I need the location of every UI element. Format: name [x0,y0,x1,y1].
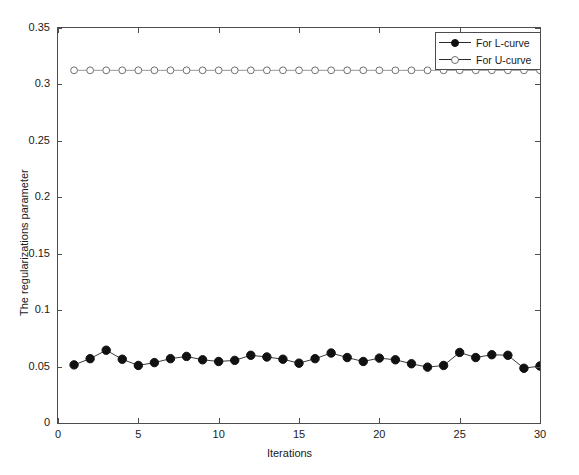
x-tick-mark [138,418,139,423]
data-point [151,67,158,74]
y-tick-mark [57,367,62,368]
data-point [296,67,303,74]
data-point [376,67,383,74]
data-point [520,364,528,372]
data-point [359,357,367,365]
x-tick-label: 5 [118,428,158,440]
y-tick-mark [535,423,540,424]
y-tick-mark [57,141,62,142]
legend-label-l-curve: For L-curve [471,37,530,49]
data-point [279,355,287,363]
data-point [423,363,431,371]
data-point [455,348,463,356]
x-tick-label: 25 [440,428,480,440]
data-point [344,67,351,74]
legend-item-u-curve: For U-curve [436,51,540,68]
data-point [167,67,174,74]
data-point [134,361,142,369]
data-point [312,67,319,74]
y-tick-label: 0.05 [0,360,50,372]
data-point [328,67,335,74]
data-point [375,354,383,362]
data-point [119,67,126,74]
data-point [214,357,222,365]
data-point [424,67,431,74]
x-tick-mark [138,28,139,33]
data-point [360,67,367,74]
y-tick-mark [57,84,62,85]
data-point [198,356,206,364]
x-tick-label: 15 [279,428,319,440]
y-tick-mark [535,310,540,311]
data-point [392,67,399,74]
data-point [215,67,222,74]
x-tick-label: 20 [359,428,399,440]
data-point [183,67,190,74]
x-tick-mark [299,28,300,33]
data-point [439,361,447,369]
data-point [247,351,255,359]
data-point [103,67,110,74]
data-point [231,356,239,364]
x-tick-mark [379,418,380,423]
x-tick-mark [540,418,541,423]
y-tick-label: 0.3 [0,77,50,89]
data-point [504,351,512,359]
x-tick-mark [58,28,59,33]
data-point [311,354,319,362]
data-point [135,67,142,74]
data-point [102,346,110,354]
y-tick-mark [535,141,540,142]
x-tick-mark [299,418,300,423]
data-point [280,67,287,74]
y-tick-mark [535,84,540,85]
data-point [71,67,78,74]
plot-canvas [58,28,540,423]
data-point [118,355,126,363]
x-tick-mark [460,418,461,423]
x-tick-label: 10 [199,428,239,440]
x-axis-title: Iterations [0,447,579,459]
legend-symbol-filled-circle-icon [439,37,471,49]
x-tick-mark [219,28,220,33]
data-point [488,351,496,359]
data-point [182,352,190,360]
y-tick-mark [57,254,62,255]
x-tick-mark [219,418,220,423]
y-tick-label: 0.35 [0,21,50,33]
legend-item-l-curve: For L-curve [436,34,540,51]
data-point [407,360,415,368]
figure: 00.050.10.150.20.250.30.35 051015202530 … [0,0,579,475]
data-point [70,361,78,369]
data-point [408,67,415,74]
y-tick-mark [535,254,540,255]
y-tick-mark [535,367,540,368]
y-tick-label: 0 [0,416,50,428]
data-point [150,358,158,366]
x-tick-label: 30 [520,428,560,440]
data-point [327,349,335,357]
y-tick-mark [535,197,540,198]
series-l-curve [70,346,540,372]
data-point [263,353,271,361]
y-tick-mark [57,310,62,311]
data-point [263,67,270,74]
data-point [231,67,238,74]
y-axis-title: The regularizations parameter [18,169,30,316]
data-point [87,67,94,74]
x-tick-label: 0 [38,428,78,440]
data-point [343,353,351,361]
data-point [199,67,206,74]
data-point [166,354,174,362]
plot-area [57,27,541,424]
x-tick-mark [379,28,380,33]
legend-symbol-open-circle-icon [439,54,471,66]
data-point [472,353,480,361]
legend-label-u-curve: For U-curve [471,54,531,66]
legend: For L-curve For U-curve [435,32,541,70]
y-tick-label: 0.25 [0,134,50,146]
data-point [247,67,254,74]
data-point [295,359,303,367]
x-tick-mark [58,418,59,423]
data-point [86,354,94,362]
